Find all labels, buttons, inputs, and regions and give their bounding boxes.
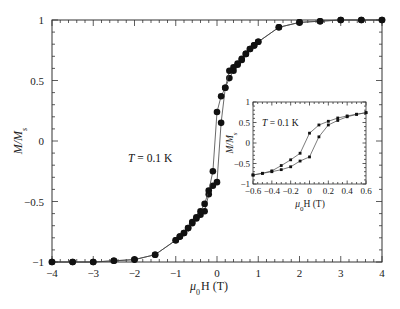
inset-x-tick-label: −0.2 bbox=[283, 186, 299, 196]
inset-data-point bbox=[355, 113, 358, 116]
main-data-point bbox=[201, 201, 208, 208]
main-data-point bbox=[49, 259, 56, 266]
inset-x-tick-label: 0.4 bbox=[342, 186, 354, 196]
main-data-point bbox=[222, 84, 229, 91]
main-data-point bbox=[152, 251, 159, 258]
main-data-point bbox=[218, 93, 225, 100]
main-data-point bbox=[111, 257, 118, 264]
inset-data-point bbox=[336, 117, 339, 120]
inset-data-point bbox=[280, 168, 283, 171]
main-x-tick-label: −1 bbox=[170, 267, 182, 279]
inset-data-point bbox=[327, 120, 330, 123]
inset-y-tick-label: −0.5 bbox=[234, 159, 251, 169]
main-x-tick-label: −4 bbox=[46, 267, 58, 279]
main-data-point bbox=[214, 109, 221, 116]
main-data-point bbox=[296, 19, 303, 26]
main-y-tick-label: 0.5 bbox=[30, 75, 44, 87]
inset-data-point bbox=[308, 156, 311, 159]
main-data-point bbox=[226, 68, 233, 75]
main-data-point bbox=[358, 17, 365, 24]
inset-data-point bbox=[336, 119, 339, 122]
main-y-tick-label: 1 bbox=[39, 14, 45, 26]
main-x-tick-label: 1 bbox=[256, 267, 262, 279]
inset-data-point bbox=[346, 115, 349, 118]
inset-data-point bbox=[280, 164, 283, 167]
inset-data-point bbox=[318, 135, 321, 138]
main-x-tick-label: 3 bbox=[338, 267, 344, 279]
inset-y-tick-label: 1 bbox=[246, 97, 251, 107]
inset-data-point bbox=[299, 160, 302, 163]
main-x-tick-label: 4 bbox=[379, 267, 385, 279]
main-data-point bbox=[189, 219, 196, 226]
inset-data-point bbox=[252, 174, 255, 177]
main-data-point bbox=[214, 179, 221, 186]
inset-temperature-annotation: T = 0.1 K bbox=[262, 118, 299, 128]
inset-x-tick-label: 0 bbox=[307, 186, 312, 196]
main-data-point bbox=[337, 17, 344, 24]
inset-x-tick-label: −0.4 bbox=[264, 186, 281, 196]
inset-data-point bbox=[365, 111, 368, 114]
inset-x-axis-title: μ0H (T) bbox=[294, 199, 325, 213]
inset-plot: −0.6−0.4−0.200.20.40.610.50−0.5−1 bbox=[234, 97, 372, 196]
main-data-point bbox=[276, 24, 283, 31]
main-x-tick-label: −3 bbox=[87, 267, 99, 279]
inset-data-point bbox=[327, 124, 330, 127]
inset-y-axis-title: M/Ms bbox=[225, 132, 239, 154]
temperature-annotation: T = 0.1 K bbox=[128, 152, 173, 164]
inset-data-point bbox=[261, 172, 264, 175]
main-data-point bbox=[90, 259, 97, 266]
main-data-point bbox=[172, 237, 179, 244]
main-data-point bbox=[317, 18, 324, 25]
main-data-point bbox=[210, 168, 217, 175]
inset-x-tick-label: 0.6 bbox=[360, 186, 372, 196]
main-x-tick-label: 0 bbox=[214, 267, 220, 279]
inset-data-point bbox=[270, 169, 273, 172]
main-data-point bbox=[197, 208, 204, 215]
main-data-point bbox=[379, 17, 386, 24]
inset-data-point bbox=[299, 152, 302, 155]
main-data-point bbox=[205, 187, 212, 194]
hysteresis-chart: −4−3−2−10123410.50−0.5−1 −0.6−0.4−0.200.… bbox=[0, 0, 400, 309]
y-axis-title: M/Ms bbox=[11, 128, 29, 155]
inset-y-tick-label: 0.5 bbox=[239, 118, 251, 128]
inset-y-tick-label: −1 bbox=[240, 179, 250, 189]
main-data-point bbox=[218, 120, 225, 127]
main-x-tick-label: 2 bbox=[297, 267, 303, 279]
inset-y-tick-label: 0 bbox=[246, 138, 251, 148]
main-data-point bbox=[131, 256, 138, 263]
main-y-tick-label: −0.5 bbox=[24, 196, 44, 208]
inset-data-point bbox=[318, 124, 321, 127]
main-y-tick-label: 0 bbox=[39, 135, 45, 147]
inset-data-point bbox=[289, 165, 292, 168]
main-x-tick-label: −2 bbox=[129, 267, 141, 279]
main-y-tick-label: −1 bbox=[32, 256, 44, 268]
inset-data-point bbox=[308, 132, 311, 135]
inset-x-tick-label: 0.2 bbox=[323, 186, 334, 196]
x-axis-title: μ0H (T) bbox=[189, 279, 228, 297]
inset-data-point bbox=[289, 158, 292, 161]
main-data-point bbox=[69, 259, 76, 266]
